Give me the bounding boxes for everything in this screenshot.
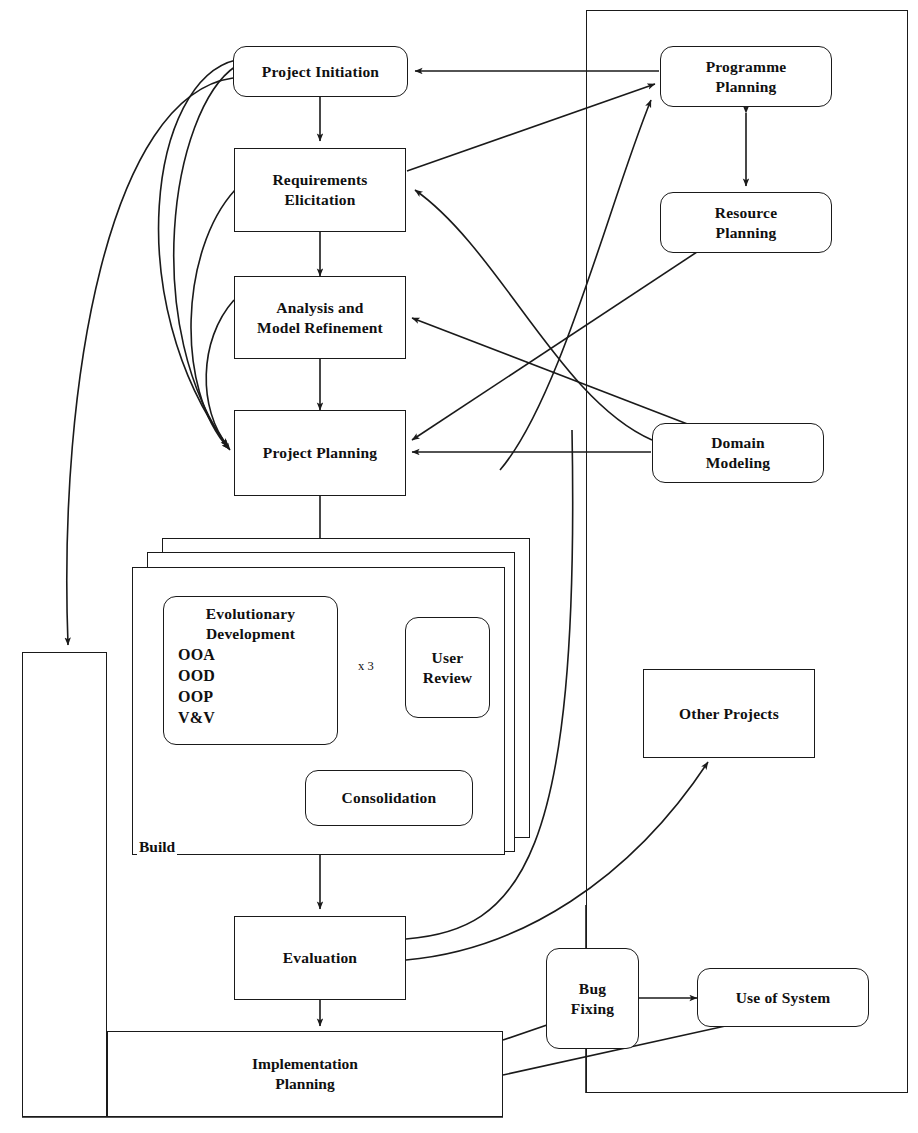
left-outer-frame: [22, 652, 107, 1117]
node-evolutionary-development-item-vandv: V&V: [164, 707, 337, 728]
node-programme-planning[interactable]: Programme Planning: [660, 46, 832, 107]
node-evolutionary-development[interactable]: Evolutionary Development OOA OOD OOP V&V: [163, 596, 338, 745]
node-user-review-line-2: Review: [423, 668, 472, 688]
node-project-planning-line-1: Project Planning: [263, 443, 377, 463]
node-evolutionary-development-line-1: Evolutionary: [164, 604, 337, 624]
node-user-review[interactable]: User Review: [405, 617, 490, 718]
node-requirements-elicitation[interactable]: Requirements Elicitation: [234, 148, 406, 232]
node-bug-fixing-line-2: Fixing: [571, 999, 614, 1019]
node-use-of-system-line-1: Use of System: [736, 988, 831, 1008]
node-requirements-elicitation-line-1: Requirements: [272, 170, 367, 190]
node-domain-modeling[interactable]: Domain Modeling: [652, 423, 824, 483]
node-analysis-model-refinement-line-1: Analysis and: [276, 298, 363, 318]
node-bug-fixing[interactable]: Bug Fixing: [546, 948, 639, 1049]
node-implementation-planning-line-1: Implementation: [252, 1054, 358, 1074]
node-other-projects[interactable]: Other Projects: [643, 669, 815, 758]
node-bug-fixing-line-1: Bug: [579, 979, 606, 999]
node-consolidation[interactable]: Consolidation: [305, 770, 473, 826]
node-evolutionary-development-line-2: Development: [164, 624, 337, 644]
node-programme-planning-line-2: Planning: [715, 77, 776, 97]
build-stack-label: Build: [137, 838, 177, 856]
right-outer-frame: [586, 10, 908, 1093]
node-resource-planning[interactable]: Resource Planning: [660, 192, 832, 253]
edge-label-iteration-count: x 3: [357, 659, 375, 674]
node-other-projects-line-1: Other Projects: [679, 704, 779, 724]
node-implementation-planning-line-2: Planning: [275, 1074, 334, 1094]
node-project-planning[interactable]: Project Planning: [234, 410, 406, 496]
diagram-canvas: Build Project Initiation Requirements El…: [0, 0, 918, 1133]
node-evaluation-line-1: Evaluation: [283, 948, 357, 968]
node-evolutionary-development-item-ood: OOD: [164, 665, 337, 686]
node-resource-planning-line-2: Planning: [715, 223, 776, 243]
node-domain-modeling-line-2: Modeling: [706, 453, 770, 473]
node-evolutionary-development-item-oop: OOP: [164, 686, 337, 707]
node-programme-planning-line-1: Programme: [706, 57, 787, 77]
node-evolutionary-development-item-ooa: OOA: [164, 644, 337, 665]
node-evaluation[interactable]: Evaluation: [234, 916, 406, 1000]
node-implementation-planning[interactable]: Implementation Planning: [107, 1031, 503, 1117]
node-analysis-model-refinement-line-2: Model Refinement: [257, 318, 383, 338]
node-requirements-elicitation-line-2: Elicitation: [284, 190, 355, 210]
node-analysis-model-refinement[interactable]: Analysis and Model Refinement: [234, 276, 406, 359]
node-domain-modeling-line-1: Domain: [711, 433, 765, 453]
node-project-initiation[interactable]: Project Initiation: [233, 46, 408, 97]
node-resource-planning-line-1: Resource: [715, 203, 777, 223]
node-user-review-line-1: User: [432, 648, 464, 668]
node-consolidation-line-1: Consolidation: [342, 788, 437, 808]
node-project-initiation-line-1: Project Initiation: [262, 62, 379, 82]
node-use-of-system[interactable]: Use of System: [697, 968, 869, 1027]
